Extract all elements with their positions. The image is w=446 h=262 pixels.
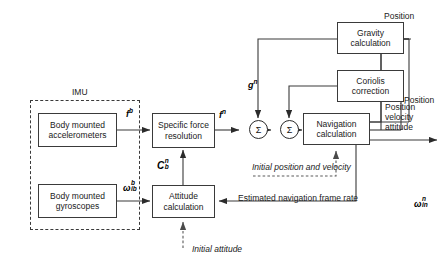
signal-omega-in-sub: in bbox=[422, 202, 428, 208]
block-specific-force-resolution[interactable]: Specific force resolution bbox=[152, 113, 215, 148]
signal-omega-ib: ω b ib bbox=[123, 180, 137, 193]
block-label-specific-force: Specific force resolution bbox=[153, 120, 214, 140]
signal-omega-in-base: ω bbox=[414, 199, 422, 209]
signal-gravity-nav: gn bbox=[248, 78, 257, 90]
signal-gravity-sup: n bbox=[254, 78, 258, 85]
block-body-mounted-accelerometers[interactable]: Body mounted accelerometers bbox=[38, 113, 117, 147]
summing-junction-2: Σ bbox=[280, 120, 299, 139]
label-estimated-navigation-frame-rate: Estimated navigation frame rate bbox=[238, 194, 358, 204]
signal-omega-in: ω n in bbox=[414, 196, 428, 209]
signal-c-sub: b bbox=[165, 164, 169, 170]
label-initial-attitude: Initial attitude bbox=[192, 245, 242, 255]
block-label-accelerometers: Body mounted accelerometers bbox=[39, 120, 116, 140]
block-coriolis-correction[interactable]: Coriolis correction bbox=[337, 70, 404, 102]
inertial-navigation-diagram: IMU Body mounted accelerometers Body mou… bbox=[0, 0, 446, 262]
label-initial-position-and-velocity: Initial position and velocity bbox=[252, 163, 351, 173]
signal-omega-ib-sub: ib bbox=[131, 186, 137, 192]
label-output-attitude: attitude bbox=[385, 123, 413, 133]
sigma-symbol-1: Σ bbox=[256, 125, 262, 135]
block-body-mounted-gyroscopes[interactable]: Body mounted gyroscopes bbox=[38, 184, 117, 218]
signal-f-nav-sup: n bbox=[222, 108, 226, 115]
signal-c-matrix: C n b bbox=[157, 158, 169, 171]
block-label-attitude: Attitude calculation bbox=[153, 191, 214, 211]
signal-c-base: C bbox=[157, 160, 164, 171]
signal-f-body-sup: b bbox=[129, 107, 133, 114]
signal-f-nav: fn bbox=[219, 108, 226, 120]
label-position-gravity: Position bbox=[384, 12, 414, 22]
block-label-navigation: Navigation calculation bbox=[304, 119, 369, 139]
block-label-gravity: Gravity calculation bbox=[338, 28, 403, 48]
sigma-symbol-2: Σ bbox=[287, 125, 293, 135]
block-label-gyroscopes: Body mounted gyroscopes bbox=[39, 191, 116, 211]
arrow-gravity-to-sum1 bbox=[258, 39, 337, 118]
signal-f-body: fb bbox=[126, 107, 133, 119]
block-navigation-calculation[interactable]: Navigation calculation bbox=[303, 113, 370, 145]
signal-omega-ib-base: ω bbox=[123, 183, 131, 193]
block-label-coriolis: Coriolis correction bbox=[338, 76, 403, 96]
imu-label: IMU bbox=[72, 88, 88, 98]
block-attitude-calculation[interactable]: Attitude calculation bbox=[152, 185, 215, 218]
summing-junction-1: Σ bbox=[249, 120, 268, 139]
block-gravity-calculation[interactable]: Gravity calculation bbox=[337, 22, 404, 54]
